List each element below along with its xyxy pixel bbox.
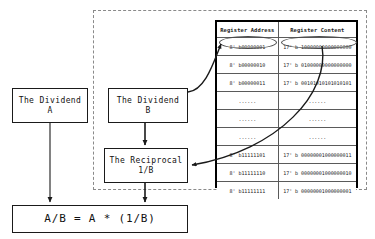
table-header-row: Register Address Register Content bbox=[217, 22, 356, 38]
cell-register-content: 17' b 01000000000000000 bbox=[278, 56, 356, 74]
cell-register-content: 17' b 00000001000000010 bbox=[278, 164, 356, 182]
box-dividend-b-line1: The Dividend bbox=[117, 96, 180, 106]
diagram-canvas: The Dividend A The Dividend B The Recipr… bbox=[0, 0, 375, 239]
box-dividend-a-line1: The Dividend bbox=[19, 96, 82, 106]
cell-register-content: 17' b 10000000000000000 bbox=[278, 38, 356, 56]
cell-register-address: 8' b11111110 bbox=[217, 164, 278, 182]
cell-register-content: ...... bbox=[278, 110, 356, 128]
table-row: 8' b0000000117' b 10000000000000000 bbox=[217, 38, 356, 56]
table-row: 8' b1111111117' b 00000001000000001 bbox=[217, 182, 356, 200]
cell-register-address: 8' b00000001 bbox=[217, 38, 278, 56]
table-row: 8' b0000001117' b 00101010101010101 bbox=[217, 74, 356, 92]
box-dividend-a-line2: A bbox=[47, 106, 52, 116]
cell-register-address: 8' b00000011 bbox=[217, 74, 278, 92]
cell-register-content: 17' b 00000001000000001 bbox=[278, 182, 356, 200]
box-dividend-b: The Dividend B bbox=[108, 88, 188, 123]
cell-register-address: ...... bbox=[217, 92, 278, 110]
column-header-register-address: Register Address bbox=[217, 22, 278, 38]
table-row: ............ bbox=[217, 128, 356, 146]
table-row: 8' b1111111017' b 00000001000000010 bbox=[217, 164, 356, 182]
box-result-equation: A/B = A * (1/B) bbox=[12, 205, 188, 233]
table-row: 8' b1111110117' b 00000001000000011 bbox=[217, 146, 356, 164]
cell-register-content: ...... bbox=[278, 128, 356, 146]
register-table: Register Address Register Content 8' b00… bbox=[215, 20, 358, 188]
cell-register-address: 8' b11111101 bbox=[217, 146, 278, 164]
cell-register-content: ...... bbox=[278, 92, 356, 110]
table-row: ............ bbox=[217, 92, 356, 110]
table-row: ............ bbox=[217, 110, 356, 128]
table-row: 8' b0000001017' b 01000000000000000 bbox=[217, 56, 356, 74]
cell-register-address: 8' b11111111 bbox=[217, 182, 278, 200]
box-reciprocal-line1: The Reciprocal bbox=[109, 156, 182, 166]
cell-register-content: 17' b 00000001000000011 bbox=[278, 146, 356, 164]
column-header-register-content: Register Content bbox=[278, 22, 356, 38]
cell-register-address: ...... bbox=[217, 128, 278, 146]
cell-register-content: 17' b 00101010101010101 bbox=[278, 74, 356, 92]
box-reciprocal: The Reciprocal 1/B bbox=[104, 148, 188, 183]
box-reciprocal-line2: 1/B bbox=[138, 166, 154, 176]
cell-register-address: 8' b00000010 bbox=[217, 56, 278, 74]
box-dividend-b-line2: B bbox=[145, 106, 150, 116]
box-result-text: A/B = A * (1/B) bbox=[44, 212, 155, 226]
box-dividend-a: The Dividend A bbox=[12, 88, 88, 123]
cell-register-address: ...... bbox=[217, 110, 278, 128]
